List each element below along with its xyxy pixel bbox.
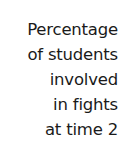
axis-label-line-4: in fights	[2, 92, 118, 117]
axis-label-line-2: of students	[2, 42, 118, 67]
axis-label-line-1: Percentage	[2, 17, 118, 42]
axis-label-line-5: at time 2	[2, 117, 118, 142]
chart-axis-label: Percentage of students involved in fight…	[0, 0, 125, 153]
axis-label-line-3: involved	[2, 67, 118, 92]
